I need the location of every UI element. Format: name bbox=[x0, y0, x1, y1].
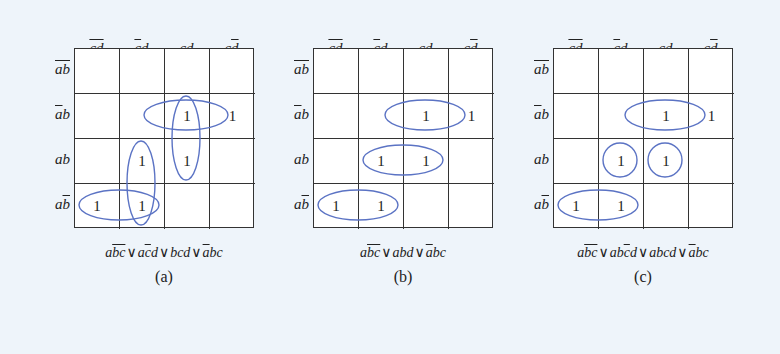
kmap-cell: 1 bbox=[75, 184, 120, 229]
row-label: ab bbox=[279, 196, 309, 213]
boolean-expression: abc∨acd∨bcd∨abc bbox=[40, 244, 288, 261]
kmap-cell bbox=[554, 94, 599, 139]
kmap-cell bbox=[314, 139, 359, 184]
kmap-cell: 1 bbox=[359, 139, 404, 184]
kmap-cell bbox=[404, 184, 449, 229]
subfigure-caption: (b) bbox=[279, 268, 527, 286]
kmap-cell bbox=[359, 49, 404, 94]
kmap-grid: 111111 bbox=[74, 48, 254, 228]
kmap-cell: 1 bbox=[120, 184, 165, 229]
kmap-cell bbox=[689, 139, 734, 184]
kmap-cell: 1 bbox=[165, 139, 210, 184]
kmap-cell bbox=[404, 49, 449, 94]
kmap-cell: 1 bbox=[314, 184, 359, 229]
kmap-cell bbox=[165, 184, 210, 229]
row-label: ab bbox=[40, 151, 70, 168]
kmap-cell: 1 bbox=[599, 184, 644, 229]
kmap-cell bbox=[449, 184, 494, 229]
kmap-cell bbox=[210, 49, 255, 94]
kmap-cell bbox=[210, 139, 255, 184]
row-label: ab bbox=[519, 61, 549, 78]
kmap-cell bbox=[554, 139, 599, 184]
kmap-a: cdcdcdcdabababab111111abc∨acd∨bcd∨abc(a) bbox=[40, 0, 280, 330]
kmap-cell bbox=[689, 184, 734, 229]
kmap-cell bbox=[644, 49, 689, 94]
kmap-cell: 1 bbox=[120, 139, 165, 184]
row-label: ab bbox=[519, 196, 549, 213]
row-label: ab bbox=[40, 106, 70, 123]
kmap-cell: 1 bbox=[359, 184, 404, 229]
kmap-cell bbox=[644, 184, 689, 229]
kmap-cell: 1 bbox=[644, 94, 689, 139]
kmap-cell bbox=[210, 184, 255, 229]
kmap-cell: 1 bbox=[404, 94, 449, 139]
row-label: ab bbox=[279, 151, 309, 168]
kmap-c: cdcdcdcdabababab111111abc∨abcd∨abcd∨abc(… bbox=[519, 0, 759, 330]
row-label: ab bbox=[279, 61, 309, 78]
kmap-cell: 1 bbox=[404, 139, 449, 184]
kmap-cell: 1 bbox=[599, 139, 644, 184]
row-label: ab bbox=[279, 106, 309, 123]
kmap-grid: 111111 bbox=[553, 48, 733, 228]
kmap-b: cdcdcdcdabababab111111abc∨abd∨abc(b) bbox=[279, 0, 519, 330]
subfigure-caption: (a) bbox=[40, 268, 288, 286]
kmap-cell: 1 bbox=[644, 139, 689, 184]
kmap-cell bbox=[120, 94, 165, 139]
kmap-grid: 111111 bbox=[313, 48, 493, 228]
kmap-cell bbox=[599, 94, 644, 139]
kmap-cell: 1 bbox=[554, 184, 599, 229]
kmap-cell bbox=[599, 49, 644, 94]
kmap-cell bbox=[689, 49, 734, 94]
kmap-cell bbox=[75, 94, 120, 139]
kmap-cell: 1 bbox=[449, 94, 494, 139]
kmap-cell: 1 bbox=[165, 94, 210, 139]
kmap-cell bbox=[75, 139, 120, 184]
kmap-cell bbox=[449, 49, 494, 94]
kmap-cell bbox=[75, 49, 120, 94]
kmap-cell: 1 bbox=[210, 94, 255, 139]
row-label: ab bbox=[40, 61, 70, 78]
kmap-cell bbox=[359, 94, 404, 139]
kmap-cell bbox=[449, 139, 494, 184]
boolean-expression: abc∨abcd∨abcd∨abc bbox=[519, 244, 767, 261]
row-label: ab bbox=[519, 106, 549, 123]
kmap-cell bbox=[165, 49, 210, 94]
kmap-cell bbox=[314, 49, 359, 94]
boolean-expression: abc∨abd∨abc bbox=[279, 244, 527, 261]
row-label: ab bbox=[40, 196, 70, 213]
kmap-cell bbox=[554, 49, 599, 94]
subfigure-caption: (c) bbox=[519, 268, 767, 286]
kmap-cell bbox=[314, 94, 359, 139]
kmap-cell bbox=[120, 49, 165, 94]
row-label: ab bbox=[519, 151, 549, 168]
kmap-cell: 1 bbox=[689, 94, 734, 139]
